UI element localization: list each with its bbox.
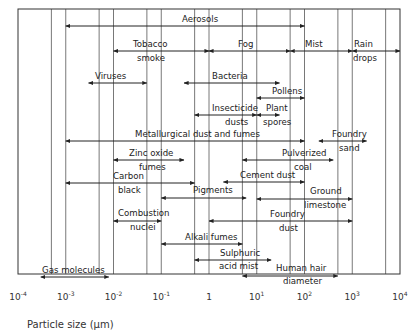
- label-hair-1: Human hair: [276, 263, 327, 273]
- label-aerosols: Aerosols: [182, 14, 219, 24]
- label-insecticide-1: Insecticide: [212, 103, 258, 113]
- label-gas: Gas molecules: [42, 265, 105, 275]
- label-combustion-2: nuclei: [130, 222, 156, 232]
- label-tobacco-2: smoke: [137, 53, 165, 63]
- label-sulphuric-1: Sulphuric: [220, 248, 261, 258]
- label-foundry-sand-1: Foundry: [332, 129, 367, 139]
- x-tick-label: 102: [297, 290, 312, 302]
- x-axis-label: Particle size (μm): [27, 319, 114, 330]
- label-plant-1: Plant: [266, 103, 288, 113]
- label-insecticide-2: dusts: [225, 117, 249, 127]
- x-tick-label: 101: [249, 290, 264, 302]
- x-tick-label: 1: [206, 292, 212, 302]
- x-tick-label: 10-1: [153, 290, 171, 302]
- label-pigments: Pigments: [193, 185, 233, 195]
- label-plant-2: spores: [263, 117, 292, 127]
- label-ground-1: Ground: [310, 186, 342, 196]
- label-foundry-sand-2: sand: [339, 143, 360, 153]
- label-pulverized-1: Pulverized: [282, 148, 326, 158]
- label-viruses: Viruses: [95, 71, 127, 81]
- particle-size-chart: Aerosols Tobacco smoke Fog Mist Rain dro…: [0, 0, 414, 335]
- label-zinc-1: Zinc oxide: [129, 148, 173, 158]
- x-axis-ticks: 10-410-310-210-11101102103104: [9, 290, 408, 302]
- label-foundry-dust-1: Foundry: [270, 209, 305, 219]
- label-carbon-1: Carbon: [113, 171, 144, 181]
- label-carbon-2: black: [118, 185, 141, 195]
- label-hair-2: diameter: [283, 276, 322, 286]
- label-rain-1: Rain: [354, 39, 373, 49]
- label-mist: Mist: [305, 39, 323, 49]
- label-cement: Cement dust: [240, 170, 296, 180]
- label-alkali: Alkali fumes: [185, 232, 238, 242]
- label-sulphuric-2: acid mist: [219, 261, 259, 271]
- label-pollens: Pollens: [272, 86, 303, 96]
- label-bacteria: Bacteria: [212, 71, 248, 81]
- label-fog: Fog: [238, 39, 253, 49]
- x-tick-label: 104: [392, 290, 407, 302]
- x-tick-label: 103: [345, 290, 360, 302]
- label-ground-2: limestone: [304, 200, 346, 210]
- label-rain-2: drops: [353, 53, 378, 63]
- range-labels: Aerosols Tobacco smoke Fog Mist Rain dro…: [42, 14, 378, 286]
- x-tick-label: 10-2: [105, 290, 123, 302]
- label-tobacco-1: Tobacco: [132, 39, 167, 49]
- x-tick-label: 10-4: [9, 290, 27, 302]
- label-combustion-1: Combustion: [118, 208, 169, 218]
- label-foundry-dust-2: dust: [279, 223, 298, 233]
- x-tick-label: 10-3: [57, 290, 75, 302]
- label-metallurgical: Metallurgical dust and fumes: [135, 129, 260, 139]
- label-pulverized-2: coal: [294, 162, 312, 172]
